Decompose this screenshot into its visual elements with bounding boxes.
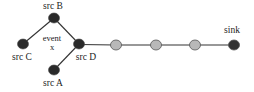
network-diagram: src B src C src D src A sink event x (0, 0, 254, 92)
label-src-d: src D (76, 52, 96, 62)
node-src-b (49, 13, 60, 23)
node-relay-1 (111, 40, 122, 50)
annotation-x: x (50, 42, 55, 52)
label-src-c: src C (12, 52, 32, 62)
node-sink (229, 40, 240, 50)
node-src-d (74, 39, 85, 49)
label-src-b: src B (43, 1, 63, 11)
edges (23, 18, 234, 70)
label-src-a: src A (43, 78, 63, 88)
node-relay-3 (190, 40, 201, 50)
node-src-c (18, 39, 29, 49)
node-src-a (49, 65, 60, 75)
node-relay-2 (151, 40, 162, 50)
label-sink: sink (224, 25, 240, 35)
